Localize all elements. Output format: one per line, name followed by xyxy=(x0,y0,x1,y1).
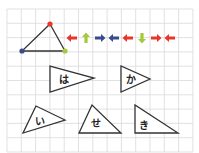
triangle-label: せ xyxy=(91,118,101,129)
arrow-right-icon xyxy=(95,34,106,42)
arrow-down-icon xyxy=(138,33,146,44)
labeled-triangles: はかいせき xyxy=(23,66,178,133)
vertex-dot-green xyxy=(62,48,67,53)
arrow-left-icon xyxy=(123,34,134,42)
triangle-shape: は xyxy=(50,66,94,92)
diagram-svg: はかいせき xyxy=(0,0,199,153)
arrow-left-icon xyxy=(165,34,176,42)
triangle-label: か xyxy=(126,74,136,85)
triangle-label: は xyxy=(59,74,69,85)
vertex-dot-red xyxy=(47,21,52,26)
diagram-canvas: はかいせき xyxy=(0,0,199,153)
triangle-outline xyxy=(50,66,94,92)
triangle-label: い xyxy=(35,116,45,127)
arrow-right-icon xyxy=(151,34,162,42)
arrow-left-icon xyxy=(109,34,120,42)
triangle-shape: い xyxy=(23,106,65,133)
triangle-label: き xyxy=(139,120,149,131)
arrow-left-icon xyxy=(67,34,78,42)
arrow-sequence xyxy=(67,33,176,44)
vertex-dot-blue xyxy=(19,48,24,53)
